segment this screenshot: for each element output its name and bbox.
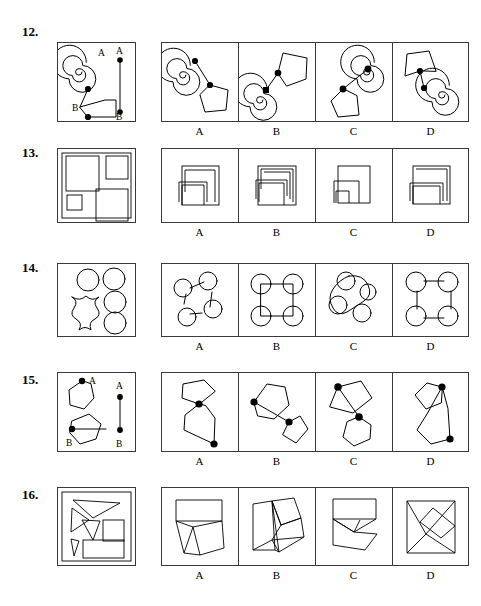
label-A-shape-12: A bbox=[98, 48, 105, 58]
dot-ref-A-12 bbox=[117, 57, 123, 63]
dot-A-15C bbox=[334, 383, 342, 391]
option-cell-15-A[interactable] bbox=[162, 373, 239, 451]
option-cell-15-B[interactable] bbox=[239, 373, 316, 451]
option-label-13-C: C bbox=[315, 226, 392, 238]
option-cell-15-D[interactable] bbox=[393, 373, 469, 451]
option-label-13-A: A bbox=[161, 226, 238, 238]
option-cell-14-B[interactable] bbox=[239, 264, 316, 336]
dot-B-12 bbox=[85, 114, 91, 120]
dot-A-15A bbox=[195, 400, 202, 407]
option-labels-14: A B C D bbox=[161, 340, 469, 352]
option-label-14-C: C bbox=[315, 340, 392, 352]
option-label-15-C: C bbox=[315, 455, 392, 467]
option-cell-13-C[interactable] bbox=[316, 149, 393, 222]
question-number-16: 16. bbox=[22, 487, 38, 503]
option-cell-15-C[interactable] bbox=[316, 373, 393, 451]
dot-A-12C bbox=[365, 66, 372, 73]
option-label-13-D: D bbox=[392, 226, 469, 238]
option-label-16-B: B bbox=[238, 569, 315, 581]
option-cell-13-B[interactable] bbox=[239, 149, 316, 222]
dot-B-12D bbox=[421, 85, 427, 91]
question-number-12: 12. bbox=[22, 24, 38, 40]
option-label-16-C: C bbox=[315, 569, 392, 581]
dot-A-15D bbox=[438, 383, 445, 390]
options-strip-15 bbox=[161, 372, 469, 452]
option-cell-16-D[interactable] bbox=[393, 488, 469, 565]
label-ref-B-15: B bbox=[116, 439, 122, 449]
option-cell-12-B[interactable] bbox=[239, 43, 316, 121]
dot-B-15D bbox=[446, 435, 453, 442]
options-strip-16 bbox=[161, 487, 469, 566]
option-cell-16-B[interactable] bbox=[239, 488, 316, 565]
option-labels-16: A B C D bbox=[161, 569, 469, 581]
label-B-shape-12: B bbox=[72, 103, 78, 113]
label-B-shape-15: B bbox=[66, 438, 72, 448]
stimulus-box-13 bbox=[57, 148, 136, 223]
option-label-15-A: A bbox=[161, 455, 238, 467]
question-number-14: 14. bbox=[22, 260, 38, 276]
dot-A-15 bbox=[79, 378, 85, 384]
dot-B-12B bbox=[275, 70, 282, 77]
stimulus-box-14 bbox=[57, 263, 136, 337]
dot-ref-B-15 bbox=[117, 427, 123, 433]
stimulus-box-12: A B A B bbox=[57, 42, 136, 122]
dot-A-15B bbox=[250, 398, 257, 405]
question-row-12: 12. A B A B bbox=[0, 20, 481, 130]
question-row-13: 13. bbox=[0, 135, 481, 240]
label-A-shape-15: A bbox=[89, 376, 96, 386]
stimulus-box-16 bbox=[57, 487, 136, 566]
question-row-15: 15. A B A B bbox=[0, 363, 481, 473]
question-row-14: 14. bbox=[0, 250, 481, 355]
option-cell-12-D[interactable] bbox=[393, 43, 469, 121]
question-row-16: 16. bbox=[0, 478, 481, 588]
dot-B-15A bbox=[210, 440, 217, 447]
option-label-13-B: B bbox=[238, 226, 315, 238]
option-label-14-A: A bbox=[161, 340, 238, 352]
option-label-15-D: D bbox=[392, 455, 469, 467]
label-ref-A-15: A bbox=[116, 381, 123, 391]
option-cell-16-A[interactable] bbox=[162, 488, 239, 565]
dot-B-15B bbox=[285, 418, 292, 425]
stimulus-box-15: A B A B bbox=[57, 372, 136, 452]
stimulus-svg-12: A B A B bbox=[58, 43, 135, 121]
dot-B-12C bbox=[340, 86, 347, 93]
dot-A-12A bbox=[192, 58, 198, 64]
options-strip-13 bbox=[161, 148, 469, 223]
question-number-13: 13. bbox=[22, 145, 38, 161]
option-labels-15: A B C D bbox=[161, 455, 469, 467]
option-label-16-D: D bbox=[392, 569, 469, 581]
dot-B-12A bbox=[207, 82, 213, 88]
option-label-14-B: B bbox=[238, 340, 315, 352]
test-page: 12. A B A B bbox=[0, 0, 481, 606]
option-cell-14-A[interactable] bbox=[162, 264, 239, 336]
option-labels-13: A B C D bbox=[161, 226, 469, 238]
option-cell-12-A[interactable] bbox=[162, 43, 239, 121]
options-strip-12 bbox=[161, 42, 469, 122]
option-label-14-D: D bbox=[392, 340, 469, 352]
dot-A-12D bbox=[417, 68, 423, 74]
option-cell-13-D[interactable] bbox=[393, 149, 469, 222]
dot-B-15C bbox=[355, 413, 363, 421]
option-cell-12-C[interactable] bbox=[316, 43, 393, 121]
option-cell-14-C[interactable] bbox=[316, 264, 393, 336]
dot-A-12 bbox=[85, 86, 91, 92]
option-label-16-A: A bbox=[161, 569, 238, 581]
label-ref-B-12: B bbox=[116, 112, 122, 121]
dot-A-12B bbox=[263, 87, 269, 93]
options-strip-14 bbox=[161, 263, 469, 337]
question-number-15: 15. bbox=[22, 372, 38, 388]
dot-ref-A-15 bbox=[117, 394, 123, 400]
option-label-15-B: B bbox=[238, 455, 315, 467]
label-ref-A-12: A bbox=[116, 46, 123, 56]
option-cell-13-A[interactable] bbox=[162, 149, 239, 222]
option-cell-16-C[interactable] bbox=[316, 488, 393, 565]
option-cell-14-D[interactable] bbox=[393, 264, 469, 336]
